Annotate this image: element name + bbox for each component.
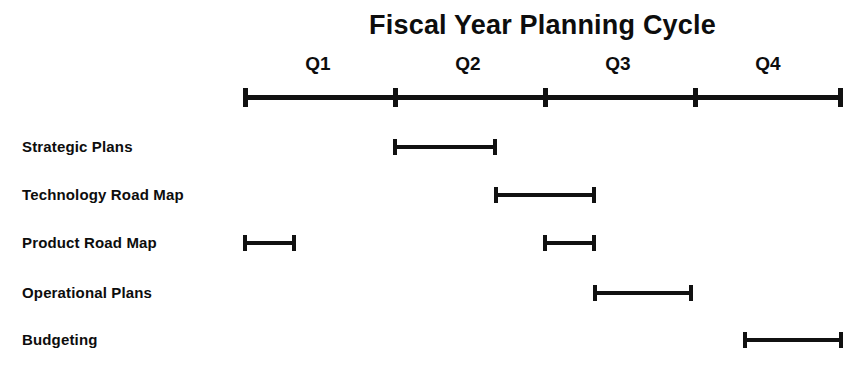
task-bar[interactable] xyxy=(393,145,497,149)
task-track xyxy=(243,326,843,354)
gantt-chart: Fiscal Year Planning Cycle Q1Q2Q3Q4 Stra… xyxy=(0,0,863,370)
task-row: Strategic Plans xyxy=(0,133,863,161)
task-label-product-road-map: Product Road Map xyxy=(22,229,157,257)
task-row: Operational Plans xyxy=(0,279,863,307)
task-track xyxy=(243,229,843,257)
axis-tick-0 xyxy=(243,88,248,107)
task-label-strategic-plans: Strategic Plans xyxy=(22,133,133,161)
task-label-technology-road-map: Technology Road Map xyxy=(22,181,184,209)
task-bar[interactable] xyxy=(593,291,694,295)
task-row: Product Road Map xyxy=(0,229,863,257)
task-label-operational-plans: Operational Plans xyxy=(22,279,152,307)
axis-tick-1 xyxy=(393,88,398,107)
task-track xyxy=(243,279,843,307)
quarter-label-q2: Q2 xyxy=(393,52,543,76)
task-bar[interactable] xyxy=(743,338,844,342)
task-bar[interactable] xyxy=(243,241,296,245)
task-row: Budgeting xyxy=(0,326,863,354)
quarter-label-q3: Q3 xyxy=(543,52,693,76)
axis-tick-4 xyxy=(838,88,843,107)
quarter-label-q1: Q1 xyxy=(243,52,393,76)
quarter-label-strip: Q1Q2Q3Q4 xyxy=(243,52,843,78)
quarter-label-q4: Q4 xyxy=(693,52,843,76)
task-track xyxy=(243,133,843,161)
axis-tick-3 xyxy=(693,88,698,107)
chart-title: Fiscal Year Planning Cycle xyxy=(0,9,863,41)
task-row: Technology Road Map xyxy=(0,181,863,209)
task-bar[interactable] xyxy=(494,193,596,197)
axis-tick-2 xyxy=(543,88,548,107)
task-track xyxy=(243,181,843,209)
timeline-axis xyxy=(243,95,843,100)
task-bar[interactable] xyxy=(543,241,596,245)
task-label-budgeting: Budgeting xyxy=(22,326,98,354)
